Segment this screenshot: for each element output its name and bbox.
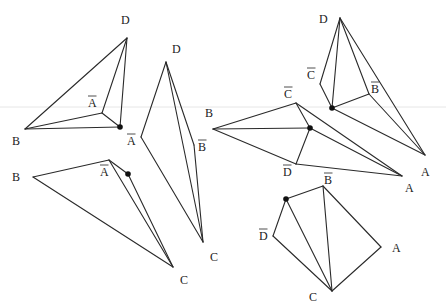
- edge-D-Bbar: [340, 18, 369, 94]
- vertex-label: B: [12, 134, 20, 148]
- edge-B-Dbar: [213, 129, 296, 164]
- edge-Cbar-A: [296, 103, 402, 176]
- edge-Dbar-C: [273, 236, 332, 291]
- edge-P-A: [310, 128, 402, 176]
- vertex-label: A: [392, 241, 401, 255]
- edge-D-P: [120, 38, 127, 127]
- edge-Dbar-A: [296, 164, 402, 176]
- figure-3: DABC: [127, 42, 218, 264]
- figure-4: BCDA: [205, 87, 414, 195]
- marked-point: [307, 125, 313, 131]
- figure-6: BDAC: [259, 173, 401, 304]
- edge-Abar-P: [102, 113, 120, 127]
- edge-B-P: [213, 128, 310, 129]
- edge-Abar-C: [141, 137, 203, 242]
- vertex-label: B: [12, 170, 20, 184]
- geometry-diagram: DABBACDABCBCDADCBABDAC: [0, 0, 446, 306]
- edge-P-Dbar: [296, 128, 310, 164]
- marked-point: [283, 196, 289, 202]
- vertex-label: A: [405, 181, 414, 195]
- edge-B-P: [25, 127, 120, 129]
- edge-Bbar-A: [369, 94, 425, 155]
- edge-P-Dbar: [273, 199, 286, 236]
- figure-2: BAC: [12, 160, 188, 287]
- vertex-label: D: [319, 12, 328, 26]
- figure-5: DCBA: [307, 12, 430, 179]
- vertex-label-bar: D: [283, 165, 292, 179]
- marked-point: [329, 105, 335, 111]
- vertex-label-bar: B: [371, 82, 379, 96]
- vertex-label-bar: A: [88, 96, 97, 110]
- edge-Bbar-C: [194, 145, 203, 242]
- vertex-label-bar: C: [307, 68, 315, 82]
- edge-Bbar-A: [323, 186, 381, 247]
- edge-Cbar-P: [320, 84, 332, 108]
- edge-D-A: [340, 18, 425, 155]
- vertex-label-bar: C: [284, 87, 292, 101]
- edge-D-Abar: [141, 62, 166, 137]
- vertex-label: D: [121, 13, 130, 27]
- edge-B-C: [33, 177, 173, 267]
- marked-point: [117, 124, 123, 130]
- vertex-label-bar: B: [198, 140, 206, 154]
- vertex-label: D: [172, 42, 181, 56]
- vertex-label: B: [205, 106, 213, 120]
- vertex-label-bar: A: [127, 134, 136, 148]
- edge-B-Abar: [25, 113, 102, 129]
- edge-B-Abar: [33, 160, 109, 177]
- vertex-label-bar: A: [100, 165, 109, 179]
- vertex-label: C: [180, 273, 188, 287]
- marked-point: [125, 171, 131, 177]
- vertex-label: C: [210, 250, 218, 264]
- edge-Abar-P: [109, 160, 128, 174]
- edge-Abar-C: [109, 160, 173, 267]
- vertex-label: A: [421, 165, 430, 179]
- edge-P-Bbar: [332, 94, 369, 108]
- figure-1: DAB: [12, 13, 130, 148]
- figures-group: DABBACDABCBCDADCBABDAC: [12, 12, 430, 304]
- vertex-label: C: [309, 290, 317, 304]
- vertex-label-bar: B: [324, 173, 332, 187]
- vertex-label-bar: D: [259, 229, 268, 243]
- edge-P-Bbar: [286, 186, 323, 199]
- edge-A-C: [332, 247, 381, 291]
